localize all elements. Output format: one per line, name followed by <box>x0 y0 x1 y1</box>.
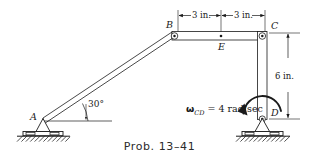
omega-value: 4 rad/sec <box>218 103 262 114</box>
dimension-label-top-left: 3 in. <box>192 11 211 20</box>
dimension-label-top-right: 3 in. <box>234 11 253 20</box>
pin-joint-c <box>259 33 266 40</box>
pin-joint-b <box>171 33 178 40</box>
omega-subscript: CD <box>194 109 204 117</box>
point-label-a: A <box>30 112 37 122</box>
support-a <box>17 119 70 142</box>
angle-label-30deg: 30° <box>88 100 104 109</box>
point-label-e: E <box>218 42 225 52</box>
point-label-d: D <box>271 108 279 118</box>
bar-ab <box>43 32 172 125</box>
figure-caption: Prob. 13–41 <box>0 140 319 153</box>
point-label-b: B <box>166 20 173 30</box>
point-label-c: C <box>271 21 278 31</box>
omega-equals: = <box>207 103 215 114</box>
bar-bc <box>172 32 266 41</box>
support-d <box>236 119 290 142</box>
midpoint-e-marker <box>220 35 223 38</box>
angular-velocity-label: ωCD = 4 rad/sec <box>186 104 263 116</box>
problem-figure: B E C D A 3 in. 3 in. 6 in. 30° ωCD = 4 … <box>0 0 319 164</box>
dimension-label-right-vertical: 6 in. <box>275 72 294 81</box>
